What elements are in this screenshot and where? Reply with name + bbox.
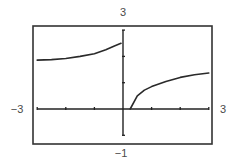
left-branch-curve [37,43,121,60]
ymin-label: −1 [115,147,128,159]
xmax-label: 3 [220,103,226,115]
xmin-label: −3 [11,103,24,115]
ymax-label: 3 [120,6,126,18]
right-branch-curve [130,73,209,109]
axes [37,30,209,135]
graphing-calculator-plot: 3 −3 3 −1 [0,0,233,160]
